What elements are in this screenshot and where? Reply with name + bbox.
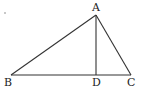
segment-ab <box>11 15 96 75</box>
triangle-diagram: A B D C <box>0 0 143 88</box>
label-a: A <box>91 1 101 14</box>
label-c: C <box>127 76 135 88</box>
stray-dot <box>4 12 5 13</box>
segment-ac <box>96 15 131 75</box>
label-d: D <box>92 76 101 88</box>
label-b: B <box>4 76 12 88</box>
